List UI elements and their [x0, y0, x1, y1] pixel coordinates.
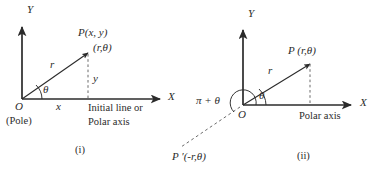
- panel-ii-reflected-point-label: P ′(-r,θ): [172, 150, 206, 163]
- panel-ii-axis-note: Polar axis: [299, 110, 341, 122]
- panel-i-theta-label: θ: [43, 83, 48, 96]
- panel-i-radius-segment: [22, 53, 88, 99]
- panel-i-caption: (i): [75, 144, 85, 156]
- panel-ii-radius-label: r: [268, 64, 272, 77]
- panel-i-y-axis-label: Y: [27, 3, 33, 16]
- panel-i-point-label: P(x, y): [78, 26, 107, 39]
- panel-i-origin-label: O: [15, 100, 23, 113]
- panel-ii-opposite-ray: [181, 107, 240, 147]
- panel-i-axis-note-line2: Polar axis: [88, 116, 130, 128]
- panel-i-y-leg-label: y: [93, 72, 98, 85]
- panel-i-radius-label: r: [50, 58, 54, 71]
- panel-ii-pi-plus-theta-label: π + θ: [196, 94, 220, 107]
- panel-ii-point-label: P (r,θ): [288, 44, 316, 57]
- panel-i-point-polar-label: (r,θ): [93, 41, 112, 54]
- panel-i-axis-note-line1: Initial line or: [88, 102, 143, 114]
- panel-ii-graphics: [181, 30, 351, 147]
- panel-ii-radius-segment: [243, 64, 310, 105]
- panel-ii-caption: (ii): [297, 150, 310, 162]
- panel-i-x-axis-label: X: [168, 90, 175, 103]
- panel-ii-x-axis-label: X: [360, 96, 367, 109]
- panel-i-x-leg-label: x: [56, 100, 61, 113]
- panel-ii-theta-label: θ: [259, 89, 264, 102]
- panel-ii-y-axis-label: Y: [248, 7, 254, 20]
- polar-coordinates-figure: Y X P(x, y) (r,θ) r θ x y O (Pole) Initi…: [0, 0, 383, 186]
- panel-ii-origin-label: O: [238, 108, 246, 121]
- panel-i-origin-sublabel: (Pole): [6, 115, 32, 127]
